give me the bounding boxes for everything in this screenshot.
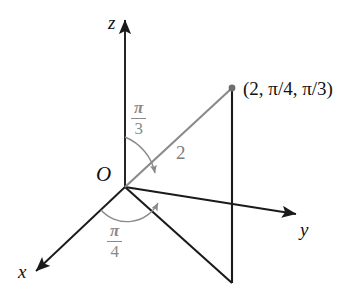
- theta-denominator: 4: [107, 243, 122, 261]
- theta-numerator: π: [107, 222, 122, 240]
- z-axis-label: z: [108, 13, 115, 32]
- x-axis-label: x: [18, 262, 26, 281]
- origin-label: O: [96, 164, 111, 185]
- y-axis-label: y: [300, 220, 308, 239]
- theta-angle-arc: [101, 203, 158, 222]
- theta-angle-label: π 4: [107, 222, 122, 261]
- phi-denominator: 3: [131, 120, 146, 138]
- phi-numerator: π: [131, 99, 146, 117]
- radius-length-label: 2: [176, 143, 186, 162]
- phi-angle-label: π 3: [131, 99, 146, 138]
- phi-angle-arc: [125, 137, 155, 173]
- point-marker: [229, 85, 236, 92]
- point-coordinate-label: (2, π/4, π/3): [243, 79, 333, 98]
- spherical-coordinate-figure: z y x O (2, π/4, π/3) 2 π 3 π 4: [0, 0, 360, 300]
